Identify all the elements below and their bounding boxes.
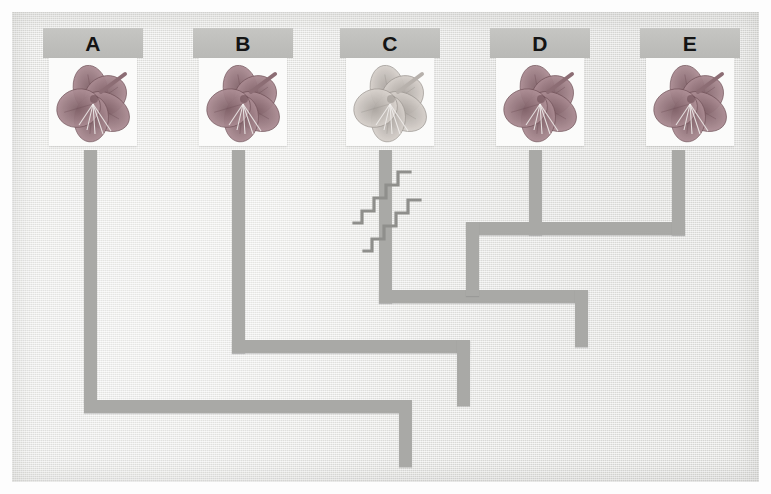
flower-icon-b [199,58,287,146]
branch-horizontal-cde [379,290,588,303]
taxon-label-d: D [532,33,548,54]
branch-internal-de-to-cde [466,222,479,296]
branch-horizontal-bcde [232,340,470,353]
taxon-label-a: A [85,33,101,54]
taxon-label-band-e: E [640,28,740,58]
taxon-label-band-b: B [193,28,293,58]
taxon-label-band-a: A [43,28,143,58]
taxon-photo-c [346,58,434,146]
branch-horizontal-root [84,400,412,413]
taxon-photo-d [496,58,584,146]
branch-root-stem [399,412,412,467]
taxon-photo-e [646,58,734,146]
branch-internal-cde-to-bcde [575,290,588,347]
branch-horizontal-de [466,222,685,235]
taxon-photo-b [199,58,287,146]
taxon-label-band-c: C [340,28,440,58]
taxon-label-b: B [235,33,251,54]
branch-stem-a [84,150,97,402]
taxon-label-c: C [382,33,398,54]
branch-internal-bcde-to-root [457,340,470,406]
flower-icon-c [346,58,434,146]
cladogram-figure: A B [0,0,771,494]
branch-stem-b [232,150,245,353]
flower-icon-d [496,58,584,146]
derived-character-mark-2 [362,196,424,254]
branch-stem-e [672,150,685,235]
taxon-photo-a [49,58,137,146]
flower-icon-e [646,58,734,146]
taxon-label-e: E [683,33,698,54]
flower-icon-a [49,58,137,146]
taxon-label-band-d: D [490,28,590,58]
